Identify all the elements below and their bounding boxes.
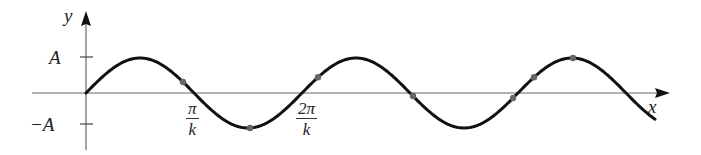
fraction-bar bbox=[186, 118, 199, 119]
y-tick-label-A: A bbox=[49, 48, 61, 67]
marked-point bbox=[410, 93, 416, 99]
fraction-bar bbox=[296, 118, 317, 119]
sine-wave-figure: y x A −A π k 2π k bbox=[0, 0, 701, 155]
x-tick-numerator: π bbox=[186, 100, 199, 117]
x-axis-arrow-icon bbox=[655, 88, 670, 98]
x-tick-denominator: k bbox=[186, 121, 199, 138]
x-axis-label: x bbox=[648, 97, 656, 116]
x-tick-label-2pi-over-k: 2π k bbox=[296, 100, 317, 138]
marked-point bbox=[531, 74, 537, 80]
marked-point bbox=[180, 79, 186, 85]
marked-point bbox=[315, 74, 321, 80]
plot-canvas bbox=[0, 0, 701, 155]
y-axis-arrow-icon bbox=[81, 11, 91, 26]
y-tick-label-minus-A: −A bbox=[30, 115, 54, 134]
marked-point bbox=[247, 125, 253, 131]
y-axis-label: y bbox=[64, 6, 72, 25]
x-tick-label-pi-over-k: π k bbox=[186, 100, 199, 138]
marked-point bbox=[570, 55, 576, 61]
x-tick-denominator: k bbox=[296, 121, 317, 138]
x-tick-numerator: 2π bbox=[296, 100, 317, 117]
marked-point bbox=[510, 95, 516, 101]
